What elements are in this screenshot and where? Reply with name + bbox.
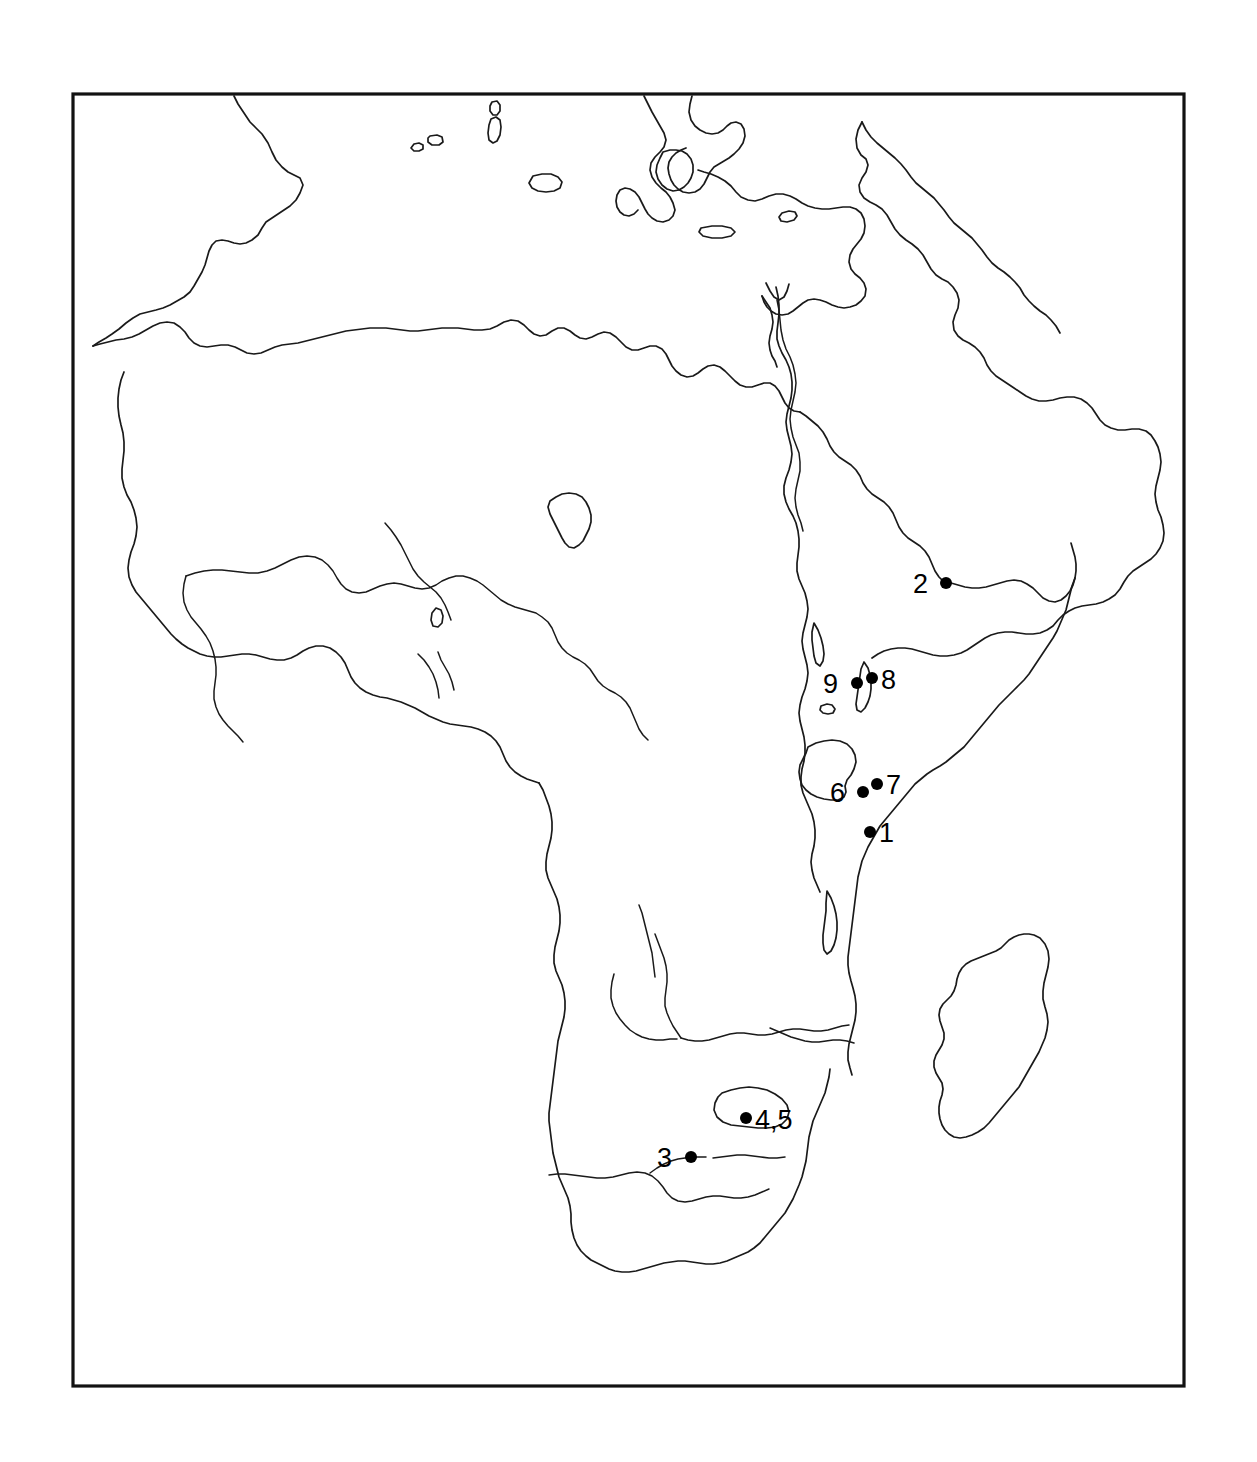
site-marker-3[interactable]: 3: [657, 1143, 697, 1173]
site-label-7: 7: [886, 770, 901, 800]
congo-upper-tributary: [639, 905, 655, 977]
site-marker-6[interactable]: 6: [830, 778, 869, 808]
orange-river: [549, 1172, 769, 1202]
site-label-2: 2: [913, 569, 928, 599]
lake-victoria-outline: [799, 740, 856, 800]
site-dot-6[interactable]: [857, 786, 869, 798]
site-dot-1[interactable]: [864, 826, 876, 838]
site-label-4-5: 4,5: [755, 1105, 793, 1135]
niger-delta-branch-2: [438, 652, 454, 690]
site-dot-4-5[interactable]: [740, 1112, 752, 1124]
central-southern-africa-west-coastline: [539, 783, 830, 1272]
site-dot-8[interactable]: [866, 672, 878, 684]
nile-river: [777, 300, 803, 531]
egypt-nile-delta-redsea-coast: [776, 287, 820, 892]
benue-river-tributary: [385, 523, 451, 620]
site-label-3: 3: [657, 1143, 672, 1173]
iberia-coastline: [93, 96, 303, 346]
balearic-island-east: [428, 135, 443, 145]
site-marker-1[interactable]: 1: [864, 818, 894, 848]
arabia-red-sea-east-shoreline: [862, 122, 1060, 333]
africa-site-map-figure: 1234,56789: [0, 0, 1257, 1462]
site-label-9: 9: [823, 669, 838, 699]
map-canvas: 1234,56789: [0, 0, 1257, 1462]
madagascar-outline: [934, 934, 1049, 1138]
anatolia-coastline: [698, 170, 866, 315]
crete-outline: [699, 226, 735, 238]
niger-delta-branch: [418, 654, 439, 698]
volta-lake-outline: [431, 608, 443, 627]
lake-kyoga-outline: [820, 704, 835, 714]
lake-turkana-outline: [812, 623, 824, 666]
lake-malawi-outline: [823, 891, 837, 954]
sardinia-outline: [488, 117, 501, 143]
site-label-8: 8: [881, 665, 896, 695]
sicily-outline: [529, 174, 562, 192]
west-africa-atlantic-coastline: [118, 372, 539, 783]
cyprus-outline: [779, 211, 797, 222]
site-markers-group: 1234,56789: [657, 569, 952, 1173]
site-dot-9[interactable]: [851, 677, 863, 689]
greece-balkans-coastline: [668, 96, 745, 193]
site-marker-4-5[interactable]: 4,5: [740, 1105, 793, 1135]
congo-river-lower: [681, 1025, 849, 1041]
niger-river-upper-branch: [183, 576, 243, 742]
levant-coastline: [762, 296, 777, 367]
vaal-river-branch: [713, 1155, 785, 1158]
map-border-frame: [73, 94, 1184, 1386]
arabian-peninsula-coastline: [856, 122, 1164, 658]
north-africa-mediterranean-coast: [93, 320, 800, 412]
horn-of-africa-coastline: [944, 543, 1076, 602]
map-geometry-group: [93, 96, 1164, 1272]
corsica-outline: [490, 101, 500, 115]
lake-chad-outline: [548, 493, 591, 548]
site-marker-7[interactable]: 7: [871, 770, 901, 800]
red-sea-west-shoreline: [800, 412, 944, 582]
site-marker-2[interactable]: 2: [913, 569, 952, 599]
congo-river: [655, 934, 681, 1038]
italy-coastline: [616, 96, 675, 222]
site-dot-2[interactable]: [940, 577, 952, 589]
site-label-6: 6: [830, 778, 845, 808]
site-label-1: 1: [879, 818, 894, 848]
balearic-island-west: [411, 143, 423, 151]
niger-river: [186, 556, 648, 740]
site-dot-3[interactable]: [685, 1151, 697, 1163]
site-dot-7[interactable]: [871, 778, 883, 790]
